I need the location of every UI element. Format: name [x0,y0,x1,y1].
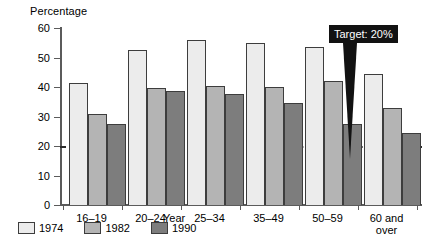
y-axis-title: Percentage [30,5,87,17]
y-tick-label: 20 [22,141,50,152]
x-tick-mark [122,205,123,210]
legend-label: 1974 [39,222,63,234]
y-tick-mark [54,176,60,177]
category-label: 35–49 [239,212,298,224]
legend-label: 1982 [105,222,129,234]
x-tick-mark [417,205,418,210]
legend-label: 1990 [172,222,196,234]
bar [383,108,402,205]
bar [88,114,107,205]
target-callout: Target: 20% [329,25,398,43]
x-tick-mark [358,205,359,210]
bar [69,83,88,205]
y-tick-label: 50 [22,53,50,64]
y-tick-label: 60 [22,23,50,34]
y-tick-label: 0 [22,200,50,211]
bar [284,103,303,205]
bar [225,94,244,205]
category-label: 50–59 [298,212,357,224]
bar [324,81,343,205]
x-tick-mark [240,205,241,210]
y-tick-label: 30 [22,112,50,123]
y-tick-label: 10 [22,171,50,182]
bar-group [69,28,126,205]
bar-chart: Percentage 6050403020100 16–1920–2425–34… [0,0,434,245]
y-tick-mark [54,58,60,59]
plot-area [62,28,420,205]
y-tick-label: 40 [22,82,50,93]
bar [305,47,324,205]
bar [187,40,206,205]
legend-item[interactable]: 1982 [84,222,129,234]
bar [166,91,185,205]
legend: 197419821990 [18,222,210,234]
legend-swatch-icon [18,222,35,234]
bar-group [128,28,185,205]
y-tick-mark [54,28,60,29]
bar [364,74,383,205]
x-tick-mark [299,205,300,210]
bar [265,87,284,205]
y-tick-mark [54,205,60,206]
legend-item[interactable]: 1990 [151,222,196,234]
x-tick-mark [63,205,64,210]
category-label: 60 and over [357,212,416,236]
y-tick-mark [54,87,60,88]
bar-group [364,28,421,205]
bar [402,133,421,205]
bar [147,88,166,205]
y-tick-mark [54,117,60,118]
bar-group [246,28,303,205]
bar [246,43,265,205]
x-tick-mark [181,205,182,210]
bar [206,86,225,205]
legend-item[interactable]: 1974 [18,222,63,234]
bar [107,124,126,205]
bar-group [187,28,244,205]
bar [128,50,147,205]
legend-swatch-icon [84,222,101,234]
legend-swatch-icon [151,222,168,234]
callout-pointer-icon [343,43,357,159]
